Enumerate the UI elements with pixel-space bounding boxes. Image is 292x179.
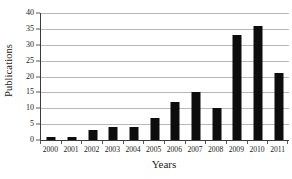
y-tick-label: 25 <box>26 57 34 65</box>
y-axis-tick-labels: 0510152025303540 <box>18 13 36 140</box>
y-tick-label: 15 <box>26 88 34 96</box>
y-tick-label: 30 <box>26 41 34 49</box>
bar-slot <box>62 13 83 140</box>
x-tick-label: 2001 <box>63 144 78 155</box>
bar-slot <box>41 13 62 140</box>
x-tick-label: 2010 <box>249 144 264 155</box>
bars-layer <box>41 13 289 140</box>
x-axis-title: Years <box>40 158 288 171</box>
y-tick-label: 35 <box>26 25 34 33</box>
bar[interactable] <box>47 137 56 140</box>
bar-slot <box>268 13 289 140</box>
bar[interactable] <box>67 137 76 140</box>
bar-slot <box>82 13 103 140</box>
y-tick-label: 20 <box>26 73 34 81</box>
x-tick-label: 2005 <box>146 144 161 155</box>
x-tick-label: 2000 <box>43 144 58 155</box>
bar[interactable] <box>274 73 283 140</box>
y-tick-label: 40 <box>26 9 34 17</box>
bar[interactable] <box>150 118 159 140</box>
bar-slot <box>206 13 227 140</box>
bar[interactable] <box>171 102 180 140</box>
plot-area <box>40 13 289 141</box>
x-axis-tick-labels: 2000200120022003200420052006200720082009… <box>40 144 288 156</box>
bar[interactable] <box>212 108 221 140</box>
x-tick-label: 2007 <box>187 144 202 155</box>
x-tick-label: 2002 <box>84 144 99 155</box>
bar-slot <box>144 13 165 140</box>
bar-slot <box>103 13 124 140</box>
bar[interactable] <box>253 26 262 140</box>
x-tick-label: 2008 <box>208 144 223 155</box>
x-tick-label: 2006 <box>167 144 182 155</box>
bar-slot <box>165 13 186 140</box>
bar[interactable] <box>88 130 97 140</box>
y-tick-label: 0 <box>30 136 34 144</box>
bar-chart-figure: Publications 0510152025303540 2000200120… <box>0 0 292 179</box>
bar[interactable] <box>109 127 118 140</box>
x-tick-label: 2003 <box>105 144 120 155</box>
bar-slot <box>227 13 248 140</box>
bar[interactable] <box>129 127 138 140</box>
bar-slot <box>248 13 269 140</box>
y-tick-label: 10 <box>26 104 34 112</box>
y-axis-title-text: Publications <box>4 43 15 96</box>
bar-slot <box>124 13 145 140</box>
x-tick-label: 2009 <box>229 144 244 155</box>
y-tick-label: 5 <box>30 120 34 128</box>
x-tick-label: 2004 <box>125 144 140 155</box>
y-axis-title: Publications <box>0 0 18 140</box>
x-tick-label: 2011 <box>270 144 285 155</box>
bar-slot <box>186 13 207 140</box>
bar[interactable] <box>191 92 200 140</box>
bar[interactable] <box>233 35 242 140</box>
